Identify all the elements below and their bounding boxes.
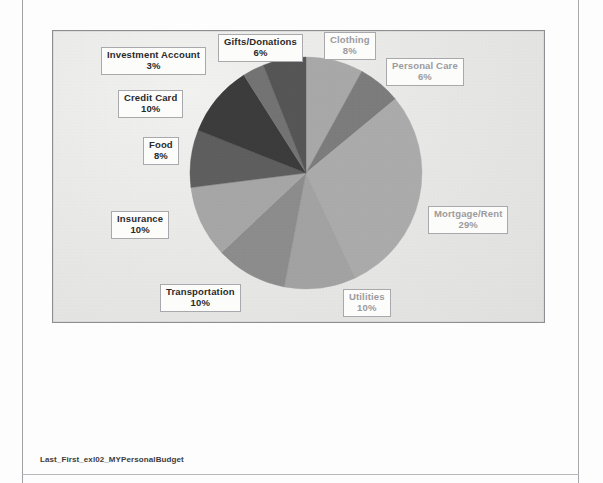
data-label-credit-card: Credit Card 10% [118,90,183,118]
data-label-clothing: Clothing 8% [324,32,376,60]
data-label-utilities: Utilities 10% [343,289,391,317]
page-left-edge [22,0,23,483]
data-label-insurance: Insurance 10% [111,211,169,239]
data-label-percent: 6% [392,72,458,83]
page-bottom-edge [22,474,579,475]
data-label-percent: 10% [124,104,177,115]
data-label-percent: 10% [117,225,163,236]
data-label-personal-care: Personal Care 6% [386,58,464,86]
pie-chart-frame[interactable]: Investment Account 3% Gifts/Donations 6%… [52,30,545,323]
data-label-percent: 3% [107,61,200,72]
data-label-percent: 8% [330,46,370,57]
pie-slice-group[interactable] [190,57,422,289]
data-label-percent: 10% [349,303,385,314]
data-label-percent: 10% [166,298,235,309]
document-page: Investment Account 3% Gifts/Donations 6%… [0,0,603,483]
data-label-food: Food 8% [143,137,179,165]
footer-filename: Last_First_exl02_MYPersonalBudget [40,455,184,464]
page-right-edge [578,0,579,483]
data-label-percent: 8% [149,151,173,162]
data-label-investment-account: Investment Account 3% [101,47,206,75]
data-label-gifts-donations: Gifts/Donations 6% [218,34,303,62]
data-label-mortgage-rent: Mortgage/Rent 29% [428,206,508,234]
data-label-percent: 29% [434,220,502,231]
data-label-transportation: Transportation 10% [160,284,241,312]
data-label-percent: 6% [224,48,297,59]
